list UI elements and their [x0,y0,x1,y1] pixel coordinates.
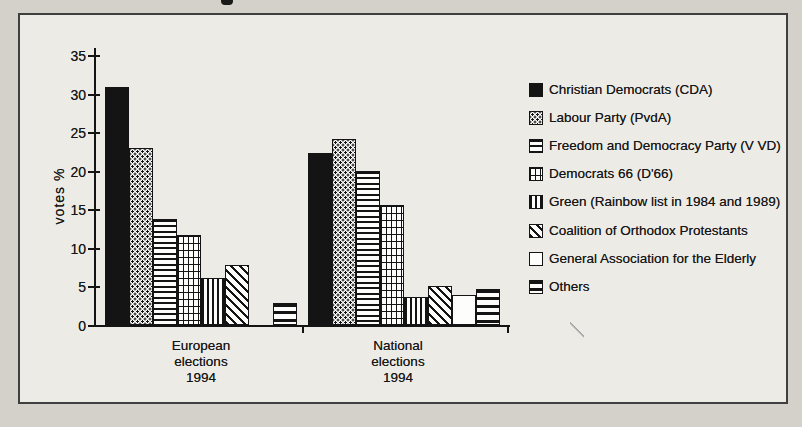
bar-solid-group1 [105,87,129,325]
y-axis-tick [88,209,100,211]
bar-hlines-group2 [356,171,380,325]
scan-scratch-artifact [570,322,584,338]
bar-solid-group2 [308,153,332,325]
legend-item-label: Others [549,279,590,295]
diagonal-lines-swatch [529,224,543,238]
horizontal-lines-swatch [529,139,543,153]
y-axis-tick [88,171,100,173]
bar-grid-group1 [177,235,201,325]
cropped-text-artifact [221,0,233,5]
y-axis-tick-label: 10 [54,241,86,257]
white-swatch [529,252,543,266]
x-axis-tick [507,325,509,333]
grid-swatch [529,167,543,181]
x-axis-group-label-line: 1994 [136,370,266,386]
y-axis-tick [88,55,100,57]
legend-item-label: Coalition of Orthodox Protestants [549,223,748,239]
solid-black-swatch [529,83,543,97]
bar-grid-group2 [380,205,404,325]
bar-vlines-group1 [201,278,225,325]
bar-vlines-group2 [404,297,428,325]
y-axis-tick-label: 30 [54,87,86,103]
legend-item-label: General Association for the Elderly [549,251,756,267]
x-axis-tick [302,325,304,333]
bar-diag-group1 [225,265,249,325]
x-axis-group-label-line: National [333,338,463,354]
x-axis-group-label-line: elections [136,354,266,370]
y-axis-tick-label: 5 [54,279,86,295]
y-axis-tick-label: 0 [54,318,86,334]
x-axis-group-label-line: 1994 [333,370,463,386]
y-axis-tick-label: 25 [54,125,86,141]
legend-item-label: Labour Party (PvdA) [549,110,671,126]
y-axis-tick-label: 15 [54,202,86,218]
y-axis-tick [88,94,100,96]
x-axis-group-label-line: elections [333,354,463,370]
legend-item-label: Christian Democrats (CDA) [549,82,713,98]
thick-horizontal-lines-swatch [529,280,543,294]
legend-item-label: Freedom and Democracy Party (V VD) [549,138,781,154]
y-axis-tick-label: 20 [54,164,86,180]
bar-dots-group1 [129,148,153,325]
y-axis-tick [88,325,100,327]
legend-item-label: Democrats 66 (D'66) [549,166,673,182]
bar-thick-group1 [273,303,297,325]
y-axis-tick [88,132,100,134]
legend-item-label: Green (Rainbow list in 1984 and 1989) [549,194,780,210]
y-axis-tick [88,248,100,250]
vertical-lines-swatch [529,195,543,209]
y-axis-tick-label: 35 [54,48,86,64]
bar-thick-group2 [476,289,500,325]
scanned-chart-page: votes % 35302520151050Europeanelections1… [0,0,802,427]
x-axis-group-label-line: European [136,338,266,354]
y-axis-tick [88,286,100,288]
x-axis-group-label: Nationalelections1994 [333,338,463,386]
bar-dots-group2 [332,139,356,325]
dotted-swatch [529,111,543,125]
bar-white-group2 [452,295,476,325]
bar-hlines-group1 [153,219,177,325]
x-axis-group-label: Europeanelections1994 [136,338,266,386]
bar-diag-group2 [428,286,452,325]
